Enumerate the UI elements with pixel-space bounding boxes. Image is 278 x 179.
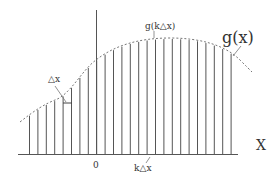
curve-label-pointer <box>233 46 241 56</box>
riemann-sum-diagram: g(k△x) g(x) △x 0 k△x X <box>0 0 278 179</box>
x-axis-label: X <box>256 137 266 153</box>
vertical-strips <box>30 39 232 154</box>
origin-label: 0 <box>93 160 99 170</box>
sample-label: g(k△x) <box>145 21 175 31</box>
curve-label: g(x) <box>222 28 254 47</box>
delta-x-label: △x <box>48 74 60 84</box>
k-label: k△x <box>134 163 151 173</box>
